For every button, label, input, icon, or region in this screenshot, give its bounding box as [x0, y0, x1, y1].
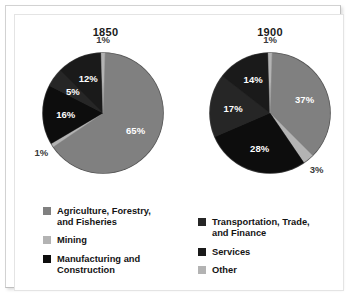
- pie-slice-label: 3%: [310, 164, 324, 175]
- legend-item-manufacturing[interactable]: Manufacturing and Construction: [43, 254, 193, 276]
- pie-slice-label: 17%: [224, 103, 244, 114]
- legend-item-transportation[interactable]: Transportation, Trade, and Finance: [198, 217, 349, 239]
- pie-slice-label: 1%: [263, 34, 277, 45]
- legend-swatch-agriculture-icon: [43, 207, 51, 215]
- figure-frame-outer: 1850 65%1%16%5%12%1% 1900 37%3%28%17%14%…: [5, 5, 341, 288]
- legend-label-mining: Mining: [57, 235, 87, 246]
- pie-slice-label: 14%: [244, 74, 264, 85]
- legend-right: Transportation, Trade, and FinanceServic…: [198, 217, 349, 276]
- legend-swatch-other-icon: [198, 266, 206, 274]
- legend-item-other[interactable]: Other: [198, 265, 349, 276]
- pie-svg-1850: 65%1%16%5%12%1%: [23, 41, 188, 201]
- figure-frame-inner: 1850 65%1%16%5%12%1% 1900 37%3%28%17%14%…: [14, 14, 344, 291]
- legend-swatch-mining-icon: [43, 236, 51, 244]
- pie-wrap-1850: 65%1%16%5%12%1%: [23, 41, 188, 201]
- legend-swatch-manufacturing-icon: [43, 255, 51, 263]
- legend-left: Agriculture, Forestry, and FisheriesMini…: [43, 206, 193, 276]
- pie-chart-figure: 1850 65%1%16%5%12%1% 1900 37%3%28%17%14%…: [0, 0, 349, 298]
- legend-label-manufacturing: Manufacturing and Construction: [57, 254, 140, 276]
- pie-slice-label: 16%: [56, 109, 76, 120]
- legend-label-other: Other: [212, 265, 237, 276]
- pie-slice-label: 28%: [250, 143, 270, 154]
- legend-swatch-transportation-icon: [198, 218, 206, 226]
- pie-slice-label: 12%: [79, 73, 99, 84]
- pie-svg-1900: 37%3%28%17%14%1%: [185, 41, 349, 201]
- pie-slice-label: 1%: [34, 147, 48, 158]
- legend-label-services: Services: [212, 247, 250, 258]
- pie-slice-label: 65%: [126, 125, 146, 136]
- legend-item-services[interactable]: Services: [198, 247, 349, 258]
- pie-slice-label: 1%: [96, 34, 110, 45]
- pie-wrap-1900: 37%3%28%17%14%1%: [185, 41, 349, 201]
- pie-slice-label: 5%: [66, 86, 80, 97]
- pie-slice-label: 37%: [295, 94, 315, 105]
- legend-swatch-services-icon: [198, 248, 206, 256]
- legend-label-agriculture: Agriculture, Forestry, and Fisheries: [57, 206, 151, 228]
- legend-item-agriculture[interactable]: Agriculture, Forestry, and Fisheries: [43, 206, 193, 228]
- legend-label-transportation: Transportation, Trade, and Finance: [212, 217, 310, 239]
- legend-item-mining[interactable]: Mining: [43, 235, 193, 246]
